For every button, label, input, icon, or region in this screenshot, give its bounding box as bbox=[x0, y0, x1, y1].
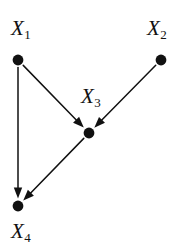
node-label-x1-base: X bbox=[11, 16, 24, 40]
node-label-x2-base: X bbox=[147, 16, 160, 40]
node-label-x2-subscript: 2 bbox=[160, 27, 167, 42]
node-label-x3-base: X bbox=[81, 84, 94, 108]
node-label-x1: X1 bbox=[11, 18, 30, 39]
node-x2 bbox=[156, 55, 167, 66]
edge-x1-x3 bbox=[23, 65, 77, 121]
node-label-x3: X3 bbox=[81, 86, 100, 107]
node-label-x2: X2 bbox=[147, 18, 166, 39]
node-x4 bbox=[13, 201, 24, 212]
node-label-x3-subscript: 3 bbox=[94, 95, 101, 110]
node-x1 bbox=[13, 55, 24, 66]
node-x3 bbox=[84, 128, 95, 139]
dag-figure: X1 X2 X3 X4 bbox=[0, 0, 186, 250]
edge-x3-x4 bbox=[30, 138, 84, 194]
node-label-x4: X4 bbox=[11, 221, 30, 242]
node-label-x4-base: X bbox=[11, 219, 24, 243]
arrowhead-x1-x4 bbox=[14, 188, 22, 199]
node-label-x1-subscript: 1 bbox=[24, 27, 31, 42]
edge-x2-x3 bbox=[101, 65, 156, 121]
node-label-x4-subscript: 4 bbox=[24, 230, 31, 245]
